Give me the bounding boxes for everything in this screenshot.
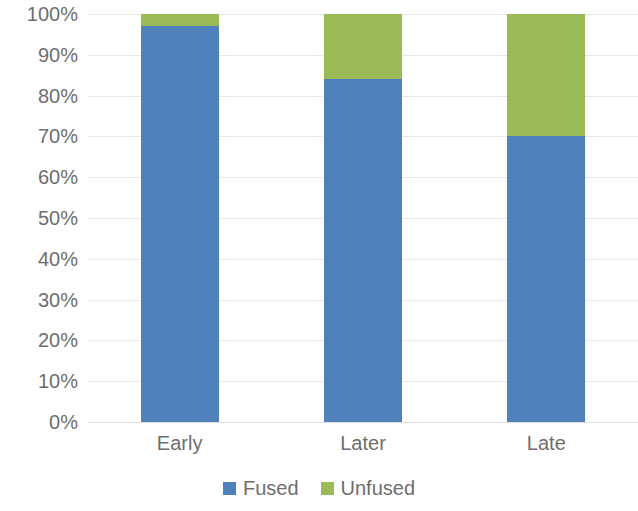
x-axis-tick-label: Early — [157, 432, 203, 455]
y-axis-tick-label: 30% — [38, 288, 78, 311]
bar-segment-unfused[interactable] — [141, 14, 219, 26]
bar-segment-fused[interactable] — [324, 79, 402, 422]
x-axis-tick-label: Later — [340, 432, 386, 455]
y-axis-tick-label: 0% — [49, 411, 78, 434]
x-axis: EarlyLaterLate — [88, 426, 638, 462]
bar-column[interactable] — [141, 14, 219, 422]
y-axis-tick-label: 10% — [38, 370, 78, 393]
y-axis-tick-label: 50% — [38, 207, 78, 230]
y-axis-tick-label: 100% — [27, 3, 78, 26]
chart-legend: FusedUnfused — [0, 478, 638, 498]
bar-segment-fused[interactable] — [141, 26, 219, 422]
bar-column[interactable] — [324, 14, 402, 422]
legend-label: Fused — [243, 478, 299, 498]
bar-segment-unfused[interactable] — [324, 14, 402, 79]
gridline — [88, 422, 638, 423]
y-axis-tick-label: 70% — [38, 125, 78, 148]
y-axis-tick-label: 20% — [38, 329, 78, 352]
bar-segment-fused[interactable] — [507, 136, 585, 422]
legend-swatch-icon — [321, 482, 334, 495]
bar-segment-unfused[interactable] — [507, 14, 585, 136]
legend-item[interactable]: Unfused — [321, 478, 416, 498]
y-axis: 0%10%20%30%40%50%60%70%80%90%100% — [0, 0, 86, 511]
y-axis-tick-label: 90% — [38, 43, 78, 66]
x-axis-tick-label: Late — [527, 432, 566, 455]
chart-container: 0%10%20%30%40%50%60%70%80%90%100% EarlyL… — [0, 0, 638, 511]
plot-area — [88, 14, 638, 422]
y-axis-tick-label: 80% — [38, 84, 78, 107]
y-axis-tick-label: 40% — [38, 247, 78, 270]
legend-item[interactable]: Fused — [223, 478, 299, 498]
legend-label: Unfused — [341, 478, 416, 498]
bar-column[interactable] — [507, 14, 585, 422]
legend-swatch-icon — [223, 482, 236, 495]
y-axis-tick-label: 60% — [38, 166, 78, 189]
